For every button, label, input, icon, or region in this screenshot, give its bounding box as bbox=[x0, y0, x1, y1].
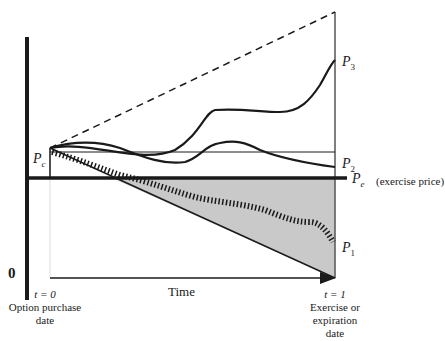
label-t1: t = 1 bbox=[295, 288, 375, 301]
label-pc: Pc bbox=[33, 152, 46, 169]
label-t1-desc-1: Exercise or bbox=[295, 301, 375, 314]
label-p2: P2 bbox=[342, 157, 355, 174]
label-t0-desc-2: date bbox=[0, 314, 90, 327]
label-t1-group: t = 1 Exercise or expiration date bbox=[295, 288, 375, 340]
label-t1-desc-3: date bbox=[295, 327, 375, 340]
label-p3: P3 bbox=[342, 55, 355, 72]
label-p1: P1 bbox=[342, 241, 355, 258]
path-p3 bbox=[50, 60, 335, 155]
label-t0-desc-1: Option purchase bbox=[0, 301, 90, 314]
label-exercise-price: (exercise price) bbox=[376, 176, 444, 187]
label-t1-desc-2: expiration bbox=[295, 314, 375, 327]
upper-bound-dashed bbox=[50, 12, 335, 148]
label-time: Time bbox=[168, 285, 195, 298]
label-t0-group: t = 0 Option purchase date bbox=[0, 288, 90, 327]
label-t0: t = 0 bbox=[0, 288, 90, 301]
label-pe: Pe bbox=[352, 172, 365, 189]
label-zero: 0 bbox=[8, 266, 16, 281]
